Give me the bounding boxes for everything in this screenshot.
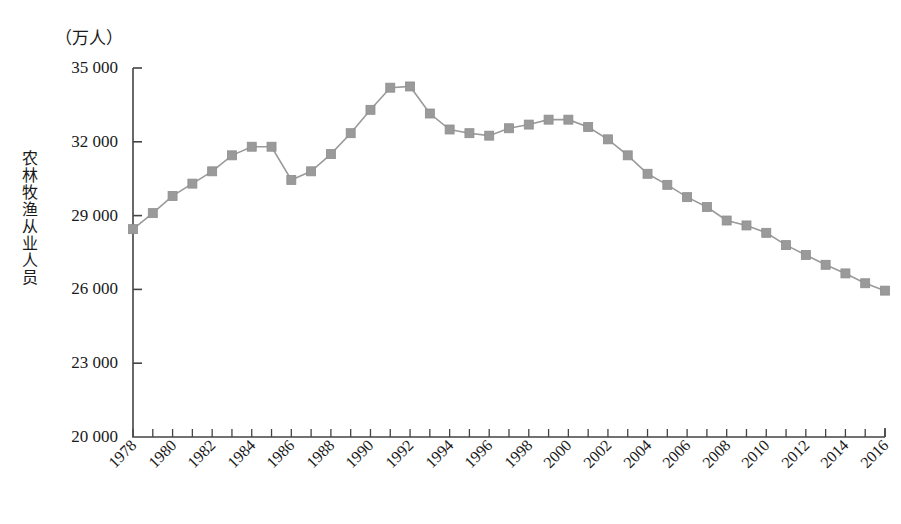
data-point-marker — [505, 124, 514, 133]
data-point-marker — [841, 269, 850, 278]
data-point-marker — [524, 120, 533, 129]
data-point-marker — [129, 225, 138, 234]
data-point-marker — [386, 83, 395, 92]
data-point-marker — [326, 150, 335, 159]
data-point-marker — [663, 180, 672, 189]
data-point-marker — [485, 131, 494, 140]
data-point-marker — [267, 142, 276, 151]
data-point-marker — [643, 169, 652, 178]
data-point-marker — [722, 216, 731, 225]
data-point-marker — [307, 167, 316, 176]
data-point-marker — [208, 167, 217, 176]
data-point-marker — [247, 142, 256, 151]
data-point-marker — [861, 279, 870, 288]
data-point-marker — [584, 123, 593, 132]
data-point-marker — [603, 135, 612, 144]
data-point-marker — [445, 125, 454, 134]
data-point-marker — [564, 115, 573, 124]
data-point-marker — [782, 241, 791, 250]
data-point-marker — [227, 151, 236, 160]
data-point-marker — [287, 175, 296, 184]
data-point-marker — [683, 193, 692, 202]
chart-plot-area — [0, 0, 901, 524]
data-point-marker — [881, 286, 890, 295]
data-point-marker — [702, 202, 711, 211]
axis-spine — [133, 68, 885, 437]
data-point-marker — [406, 82, 415, 91]
chart-container: （万人） 农林牧渔从业人员 35 00032 00029 00026 00023… — [0, 0, 901, 524]
data-point-marker — [148, 209, 157, 218]
data-point-marker — [544, 115, 553, 124]
data-point-marker — [762, 228, 771, 237]
series-line — [133, 86, 885, 290]
data-point-marker — [168, 191, 177, 200]
data-point-marker — [821, 260, 830, 269]
data-point-marker — [188, 179, 197, 188]
data-point-marker — [346, 129, 355, 138]
data-point-marker — [801, 250, 810, 259]
data-point-marker — [366, 105, 375, 114]
data-point-marker — [742, 221, 751, 230]
data-point-marker — [465, 129, 474, 138]
data-point-marker — [425, 109, 434, 118]
data-point-marker — [623, 151, 632, 160]
